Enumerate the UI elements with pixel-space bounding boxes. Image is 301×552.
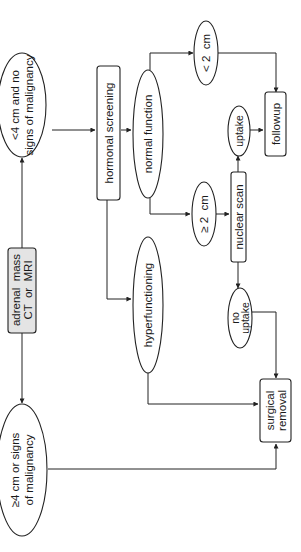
edge-normal-to-ge2 <box>150 198 190 214</box>
node-small-no-malignancy: <4 cm and no signs of malignancy <box>0 53 46 157</box>
node-hormonal-screening-label: hormonal screening <box>103 82 115 183</box>
node-uptake: uptake <box>228 106 250 156</box>
node-surgical-removal-line1: surgical <box>264 391 276 431</box>
node-large-or-malignancy-line1: ≥4 cm or signs <box>9 432 21 507</box>
node-ge-2cm-label: ≥ 2 cm <box>198 195 210 233</box>
node-small-no-malignancy-line2: signs of malignancy <box>23 54 35 155</box>
node-no-uptake: no uptake <box>228 288 252 348</box>
node-adrenal-mass: adrenal mass CT or MRI <box>8 248 36 333</box>
node-uptake-label: uptake <box>233 115 245 147</box>
node-ge-2cm: ≥ 2 cm <box>192 182 216 246</box>
node-normal-function: normal function <box>133 70 163 198</box>
node-nuclear-scan: nuclear scan <box>231 172 246 262</box>
node-no-uptake-line2: uptake <box>239 302 251 334</box>
node-large-or-malignancy: ≥4 cm or signs of malignancy <box>0 404 47 536</box>
node-hormonal-screening: hormonal screening <box>97 66 120 200</box>
node-nuclear-scan-label: nuclear scan <box>233 184 245 249</box>
node-followup: followup <box>265 92 286 156</box>
node-large-or-malignancy-line2: of malignancy <box>23 434 35 505</box>
node-normal-function-label: normal function <box>142 95 154 174</box>
node-lt-2cm: < 2 cm <box>194 21 218 85</box>
edge-hormonal-to-hyper <box>107 200 131 299</box>
node-surgical-removal-line2: removal <box>276 390 288 431</box>
node-hyperfunctioning-label: hyperfunctioning <box>142 263 154 347</box>
node-adrenal-mass-line1: adrenal mass <box>10 254 22 326</box>
node-adrenal-mass-line2: CT or MRI <box>22 260 34 319</box>
edge-large-to-surgical <box>48 444 276 469</box>
edge-hyper-to-surgical <box>148 372 258 404</box>
edge-lt2-to-followup <box>218 53 276 92</box>
edge-normal-to-lt2 <box>150 53 193 70</box>
edge-nouptake-to-surgical <box>252 312 276 378</box>
node-followup-label: followup <box>270 103 282 145</box>
node-surgical-removal: surgical removal <box>260 379 291 442</box>
node-lt-2cm-label: < 2 cm <box>200 34 212 72</box>
node-small-no-malignancy-line1: <4 cm and no <box>9 70 21 140</box>
node-hyperfunctioning: hyperfunctioning <box>133 237 163 373</box>
adrenal-mass-flowchart: <4 cm and no signs of malignancy adrenal… <box>0 0 301 552</box>
